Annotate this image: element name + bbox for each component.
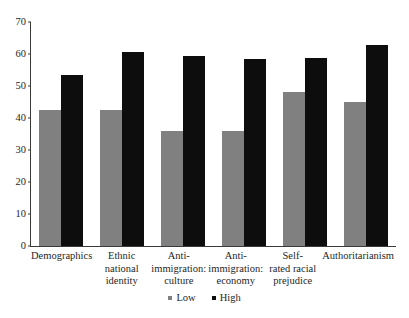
legend-swatch-icon [212, 296, 216, 300]
x-axis-category-label-line: immigration: [151, 263, 206, 276]
bar-low [222, 131, 244, 246]
bar-groups [31, 22, 396, 246]
legend-label: High [220, 293, 241, 304]
bar-low [283, 92, 305, 246]
x-axis-category-label-line: Demographics [31, 250, 92, 263]
y-axis-tick-label: 30 [16, 145, 27, 156]
x-axis-category-label-line: Self- [265, 250, 320, 263]
bar-chart-figure: 010203040506070 DemographicsEthnicnation… [0, 0, 409, 318]
bar-high [183, 56, 205, 246]
bar-pair [274, 22, 335, 246]
bar-group [274, 22, 335, 246]
bar-group [213, 22, 274, 246]
y-axis-tick-label: 20 [16, 177, 27, 188]
bar-low [344, 102, 366, 246]
x-axis-category-label: Demographics [30, 250, 93, 288]
x-axis-category-label-line: rated racial [265, 263, 320, 276]
x-axis-category-label-line: Authoritarianism [322, 250, 394, 263]
legend-swatch-icon [168, 296, 172, 300]
x-axis-labels: DemographicsEthnicnationalidentityAnti-i… [30, 250, 395, 288]
bar-group [31, 22, 92, 246]
bar-high [122, 52, 144, 246]
y-axis-tick-label: 40 [16, 113, 27, 124]
y-axis-tick-label: 50 [16, 81, 27, 92]
bar-pair [213, 22, 274, 246]
plot-area: 010203040506070 [30, 22, 396, 247]
bar-high [366, 45, 388, 246]
bar-low [161, 131, 183, 246]
bar-high [61, 75, 83, 246]
y-axis-tick-label: 0 [21, 241, 26, 252]
x-axis-category-label-line: Anti- [151, 250, 206, 263]
x-axis-category-label-line: Anti- [208, 250, 263, 263]
bar-low [100, 110, 122, 246]
bar-pair [153, 22, 214, 246]
bar-low [39, 110, 61, 246]
x-axis-category-label: Self-rated racialprejudice [264, 250, 321, 288]
x-axis-category-label: Anti-immigration:culture [150, 250, 207, 288]
bar-pair [335, 22, 396, 246]
legend-label: Low [176, 293, 195, 304]
chart-legend: LowHigh [0, 293, 409, 304]
y-axis-tick-label: 10 [16, 209, 27, 220]
x-axis-category-label-line: economy [208, 275, 263, 288]
bar-group [335, 22, 396, 246]
x-axis-category-label-line: immigration: [208, 263, 263, 276]
bar-group [92, 22, 153, 246]
x-axis-category-label-line: identity [94, 275, 149, 288]
bar-high [244, 59, 266, 246]
bar-pair [31, 22, 92, 246]
bar-pair [92, 22, 153, 246]
x-axis-category-label-line: national [94, 263, 149, 276]
legend-item-low: Low [168, 293, 195, 304]
y-axis-tick-label: 70 [16, 17, 27, 28]
x-axis-category-label-line: culture [151, 275, 206, 288]
x-axis-category-label: Ethnicnationalidentity [93, 250, 150, 288]
x-axis-category-label-line: prejudice [265, 275, 320, 288]
legend-item-high: High [212, 293, 241, 304]
bar-group [153, 22, 214, 246]
x-axis-category-label-line: Ethnic [94, 250, 149, 263]
x-axis-category-label: Anti-immigration:economy [207, 250, 264, 288]
bar-high [305, 58, 327, 246]
x-axis-category-label: Authoritarianism [321, 250, 395, 288]
y-axis-tick-label: 60 [16, 49, 27, 60]
